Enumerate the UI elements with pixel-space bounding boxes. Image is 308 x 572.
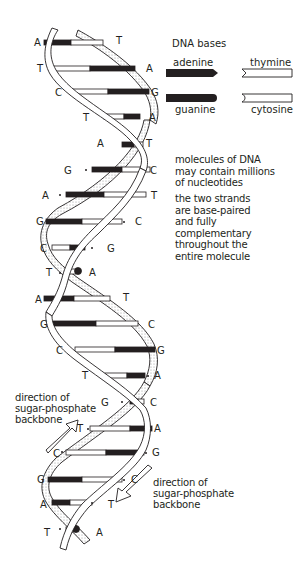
base-label: T bbox=[46, 268, 52, 278]
base-label: G bbox=[64, 166, 72, 176]
base-label: T bbox=[123, 293, 129, 303]
base-label: C bbox=[150, 166, 157, 176]
base-label: A bbox=[149, 113, 156, 123]
backbone-direction-label-right: direction of sugar-phosphate backbone bbox=[153, 477, 234, 510]
base-label: C bbox=[56, 346, 63, 356]
base-label: T bbox=[82, 371, 88, 381]
guanine-shape-icon bbox=[166, 94, 217, 102]
base-label: T bbox=[151, 191, 157, 201]
base-label: A bbox=[34, 38, 41, 48]
legend-adenine: adenine bbox=[173, 57, 213, 68]
base-label: T bbox=[44, 528, 50, 538]
backbone-direction-label-left: direction of sugar-phosphate backbone bbox=[15, 392, 96, 425]
base-label: T bbox=[37, 64, 43, 74]
base-label: C bbox=[53, 449, 60, 459]
base-label: C bbox=[40, 244, 47, 254]
base-label: G bbox=[37, 475, 45, 485]
base-label: A bbox=[154, 371, 161, 381]
cytosine-shape-icon bbox=[242, 94, 292, 102]
base-label: G bbox=[101, 398, 109, 408]
base-label: T bbox=[77, 424, 83, 434]
base-label: T bbox=[83, 113, 89, 123]
base-label: C bbox=[55, 88, 62, 98]
base-label: C bbox=[150, 398, 157, 408]
legend-guanine: guanine bbox=[175, 104, 215, 115]
backbone-strand-back bbox=[41, 30, 158, 544]
base-label: A bbox=[146, 64, 153, 74]
note-millions-of-nucleotides: molecules of DNA may contain millions of… bbox=[175, 154, 275, 189]
base-label: A bbox=[89, 268, 96, 278]
note-complementary-strands: the two strands are base-paired and full… bbox=[175, 193, 251, 262]
base-label: A bbox=[40, 500, 47, 510]
base-label: T bbox=[146, 139, 152, 149]
base-label: G bbox=[152, 448, 160, 458]
legend-shapes bbox=[166, 69, 292, 102]
base-label: G bbox=[36, 217, 44, 227]
base-label: C bbox=[148, 320, 155, 330]
legend-cytosine: cytosine bbox=[251, 104, 293, 115]
base-label: A bbox=[96, 528, 103, 538]
base-label: G bbox=[151, 88, 159, 98]
base-label: A bbox=[35, 295, 42, 305]
base-label: C bbox=[135, 217, 142, 227]
legend-title: DNA bases bbox=[172, 38, 226, 49]
base-label: T bbox=[108, 500, 114, 510]
base-label: G bbox=[40, 320, 48, 330]
base-label: A bbox=[42, 191, 49, 201]
base-label: G bbox=[157, 346, 165, 356]
base-label: T bbox=[116, 36, 122, 46]
legend-thymine: thymine bbox=[250, 57, 291, 68]
backbone-strand-front bbox=[45, 28, 151, 550]
adenine-shape-icon bbox=[166, 69, 218, 77]
base-label: A bbox=[154, 424, 161, 434]
thymine-shape-icon bbox=[242, 69, 292, 77]
base-label: A bbox=[97, 139, 104, 149]
base-label: G bbox=[107, 244, 115, 254]
base-label: C bbox=[131, 475, 138, 485]
